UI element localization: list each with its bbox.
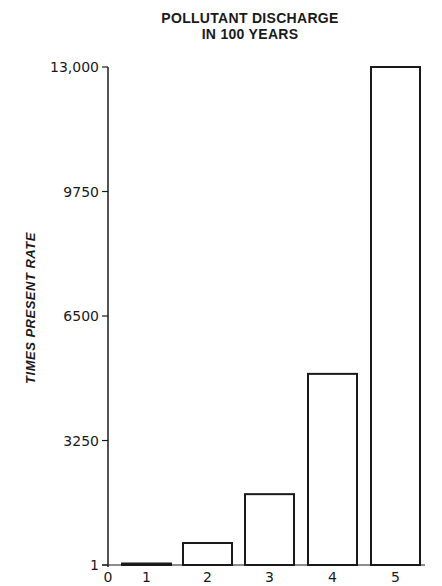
bar-2 — [183, 543, 232, 565]
y-tick-label: 1 — [90, 557, 99, 573]
bar-4 — [308, 374, 357, 565]
x-tick-label: 2 — [203, 569, 212, 585]
x-tick-label: 1 — [142, 569, 151, 585]
y-tick-label: 6500 — [63, 308, 99, 324]
x-tick-label: 4 — [328, 569, 337, 585]
bar-1 — [122, 564, 171, 566]
bar-3 — [245, 494, 294, 565]
y-tick-label: 13,000 — [50, 59, 99, 75]
y-tick-label: 9750 — [63, 184, 99, 200]
x-tick-label: 3 — [265, 569, 274, 585]
bar-chart: 132506500975013,000012345 — [0, 0, 442, 586]
bar-5 — [371, 67, 420, 565]
x-tick-label: 0 — [104, 569, 113, 585]
y-tick-label: 3250 — [63, 433, 99, 449]
x-tick-label: 5 — [391, 569, 400, 585]
